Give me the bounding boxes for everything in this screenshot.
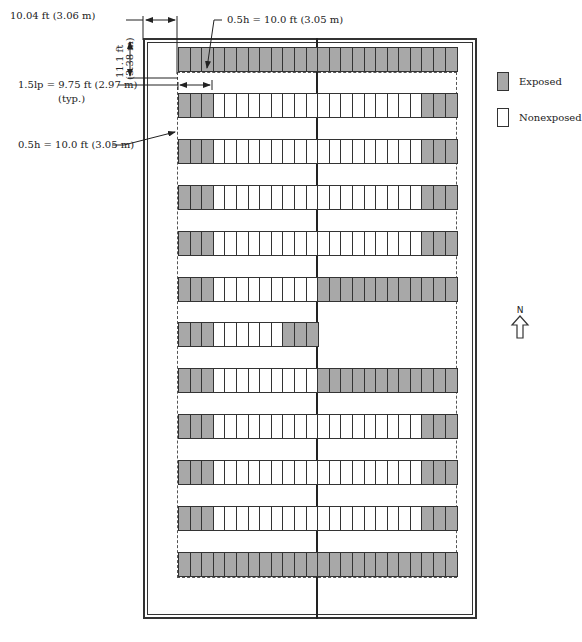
exposed-swatch <box>497 72 509 91</box>
nonexposed-swatch <box>497 108 509 127</box>
typ-width-label: 1.5lp = 9.75 ft (2.97 m) <box>18 79 137 90</box>
legend-label: Exposed <box>519 76 562 87</box>
typ-width-note: (typ.) <box>58 93 85 104</box>
legend-item-nonexposed: Nonexposed <box>497 108 582 127</box>
north-arrow: N <box>508 305 532 343</box>
north-label: N <box>508 305 532 315</box>
left-boundary-label: 0.5h = 10.0 ft (3.05 m) <box>18 139 134 150</box>
side-offset-label-m: (3.38 m) <box>124 37 135 80</box>
north-arrow-icon <box>510 315 530 339</box>
legend-label: Nonexposed <box>519 112 582 123</box>
top-boundary-label: 0.5h = 10.0 ft (3.05 m) <box>227 14 343 25</box>
legend-item-exposed: Exposed <box>497 72 562 91</box>
